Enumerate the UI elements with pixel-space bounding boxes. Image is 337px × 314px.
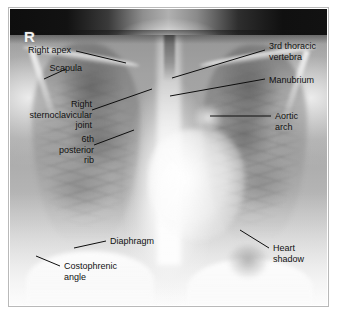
- label-aortic-arch: Aortic arch: [275, 111, 298, 132]
- label-sixth-posterior-rib: 6th posterior rib: [59, 134, 94, 166]
- annotated-chest-xray-figure: R Right apex Scapula Right sternoclavicu…: [0, 0, 337, 314]
- collimation-top-band: [10, 9, 327, 35]
- label-third-thoracic-vertebra: 3rd thoracic vertebra: [269, 41, 316, 62]
- label-manubrium: Manubrium: [269, 75, 314, 86]
- label-costophrenic-angle: Costophrenic angle: [64, 261, 117, 282]
- side-marker-right: R: [24, 28, 35, 45]
- gastric-air-bubble: [227, 245, 269, 279]
- label-right-apex: Right apex: [28, 45, 71, 56]
- label-scapula: Scapula: [49, 63, 82, 74]
- aortic-knuckle: [191, 105, 225, 131]
- label-diaphragm: Diaphragm: [110, 236, 154, 247]
- label-right-sternoclavicular-joint: Right sternoclavicular joint: [29, 99, 92, 131]
- label-heart-shadow: Heart shadow: [273, 243, 304, 264]
